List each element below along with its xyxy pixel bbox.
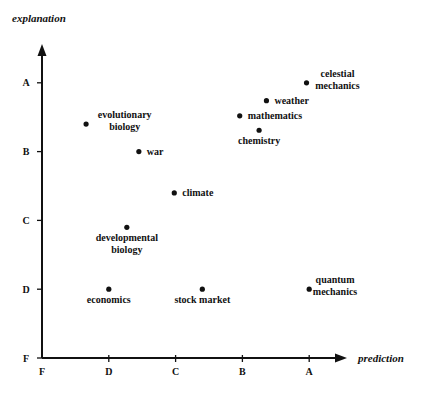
x-tick-label: C — [172, 366, 179, 377]
data-point-label: mathematics — [248, 110, 303, 121]
data-point-marker — [257, 128, 262, 133]
point-war: war — [136, 146, 164, 157]
y-tick-label: D — [22, 284, 29, 295]
y-tick-label: B — [23, 146, 30, 157]
data-point-marker — [106, 287, 111, 292]
data-point-label: economics — [87, 294, 131, 305]
point-climate: climate — [172, 187, 214, 198]
x-tick-label: B — [239, 366, 246, 377]
data-point-label: mechanics — [313, 286, 358, 297]
data-point-label: chemistry — [238, 135, 280, 146]
data-point-marker — [237, 113, 242, 118]
x-axis-title: prediction — [357, 352, 404, 364]
point-chemistry: chemistry — [238, 128, 280, 147]
y-axis-title: explanation — [12, 12, 66, 24]
x-tick-label: F — [39, 366, 45, 377]
data-point-label: war — [147, 146, 164, 157]
point-evolutionary-biology: evolutionarybiology — [83, 109, 151, 132]
point-quantum-mechanics: quantummechanics — [307, 274, 358, 297]
scatter-chart: explanation prediction FDCBA FDCBA evolu… — [0, 0, 422, 401]
data-point-marker — [124, 225, 129, 230]
data-point-label: quantum — [316, 274, 356, 285]
y-tick-label: C — [22, 215, 29, 226]
point-stock-market: stock market — [174, 287, 230, 306]
x-tick-label: A — [306, 366, 314, 377]
data-point-label: weather — [274, 95, 309, 106]
point-developmental-biology: developmentalbiology — [96, 225, 158, 256]
data-point-label: developmental — [96, 232, 158, 243]
data-point-marker — [304, 80, 309, 85]
point-economics: economics — [87, 287, 131, 306]
data-point-marker — [307, 287, 312, 292]
y-axis-arrow — [38, 44, 47, 56]
data-point-marker — [264, 98, 269, 103]
point-weather: weather — [264, 95, 310, 106]
data-point-label: celestial — [321, 68, 355, 79]
data-point-label: stock market — [174, 294, 230, 305]
point-celestial-mechanics: celestialmechanics — [304, 68, 360, 91]
data-point-label: biology — [109, 121, 140, 132]
y-ticks: FDCBA — [22, 77, 42, 363]
y-tick-label: F — [23, 353, 29, 364]
data-point-label: evolutionary — [98, 109, 152, 120]
x-axis-arrow — [335, 354, 347, 363]
data-point-label: biology — [111, 244, 142, 255]
data-point-label: mechanics — [315, 80, 360, 91]
y-tick-label: A — [22, 77, 30, 88]
data-point-marker — [83, 121, 88, 126]
data-points: evolutionarybiologywarclimatedevelopment… — [83, 68, 359, 305]
x-tick-label: D — [105, 366, 112, 377]
data-point-marker — [200, 287, 205, 292]
data-point-marker — [172, 190, 177, 195]
data-point-label: climate — [182, 187, 214, 198]
data-point-marker — [136, 149, 141, 154]
point-mathematics: mathematics — [237, 110, 302, 121]
